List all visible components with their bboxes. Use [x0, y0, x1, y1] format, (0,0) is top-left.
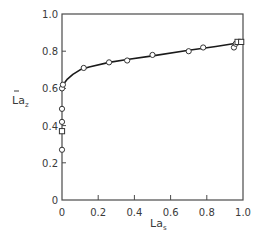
data-markers [59, 39, 243, 152]
y-tick-label: 0.2 [42, 158, 58, 169]
data-point-square [59, 129, 64, 134]
data-point-circle [59, 147, 64, 152]
y-tick-label: 0.6 [42, 83, 58, 94]
data-point-circle [59, 119, 64, 124]
data-point-square [239, 39, 244, 44]
data-point-circle [81, 65, 86, 70]
x-tick-label: 0.2 [90, 207, 106, 218]
data-point-circle [186, 49, 191, 54]
y-axis-label: Laz [12, 94, 29, 109]
x-tick-label: 0 [59, 207, 65, 218]
fit-curve [62, 43, 239, 89]
chart: 00.20.40.60.81.000.20.40.60.81.0 Las Laz [0, 0, 264, 240]
data-point-circle [150, 52, 155, 57]
x-tick-label: 0.6 [163, 207, 179, 218]
data-point-circle [125, 58, 130, 63]
data-point-circle [106, 60, 111, 65]
y-tick-label: 0.4 [42, 121, 58, 132]
data-point-circle [59, 106, 64, 111]
y-tick-label: 0 [52, 195, 58, 206]
x-tick-label: 0.8 [199, 207, 215, 218]
data-point-circle [201, 45, 206, 50]
data-point-circle [60, 82, 65, 87]
y-tick-label: 0.8 [42, 46, 58, 57]
x-tick-label: 1.0 [235, 207, 251, 218]
x-tick-label: 0.4 [126, 207, 142, 218]
axis-ticks: 00.20.40.60.81.000.20.40.60.81.0 [42, 9, 251, 218]
y-tick-label: 1.0 [42, 9, 58, 20]
x-axis-label: Las [150, 217, 167, 232]
plot-frame [62, 14, 243, 200]
